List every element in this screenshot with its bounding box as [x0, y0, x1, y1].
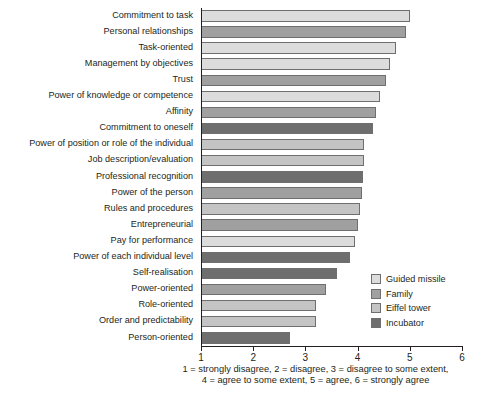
scale-caption-line-2: 4 = agree to some extent, 5 = agree, 6 =…	[140, 375, 491, 386]
bar-row	[201, 72, 462, 89]
bar-row	[201, 217, 462, 234]
bar	[201, 284, 326, 295]
x-axis-tick	[462, 346, 463, 351]
category-label: Pay for performance	[111, 235, 193, 246]
category-label: Role-oriented	[138, 299, 193, 310]
legend-item: Eiffel tower	[371, 301, 486, 316]
bar	[201, 75, 386, 86]
legend-item: Incubator	[371, 316, 486, 331]
figure-container: Commitment to taskPersonal relationships…	[0, 0, 491, 404]
category-label: Power of the person	[112, 187, 193, 198]
category-label: Power of knowledge or competence	[48, 90, 193, 101]
category-label: Personal relationships	[104, 26, 193, 37]
bar	[201, 252, 350, 263]
bar	[201, 42, 396, 53]
bar	[201, 123, 373, 134]
bar-row	[201, 121, 462, 138]
bar-row	[201, 137, 462, 154]
chart-legend: Guided missileFamilyEiffel towerIncubato…	[371, 272, 486, 330]
category-label: Power of each individual level	[73, 251, 193, 262]
category-label: Commitment to oneself	[100, 122, 194, 133]
category-label: Self-realisation	[133, 267, 193, 278]
bar	[201, 171, 363, 182]
legend-label: Guided missile	[386, 274, 446, 284]
bar-row	[201, 8, 462, 25]
bar-row	[201, 105, 462, 122]
legend-swatch	[371, 303, 381, 313]
bar	[201, 332, 290, 343]
x-axis-tick-label: 2	[250, 352, 256, 363]
bar	[201, 300, 316, 311]
bar	[201, 26, 406, 37]
bar-row	[201, 89, 462, 106]
x-axis-tick	[253, 346, 254, 351]
x-axis-tick	[358, 346, 359, 351]
category-label: Task-oriented	[138, 42, 193, 53]
legend-item: Family	[371, 287, 486, 302]
x-axis-tick-label: 5	[407, 352, 413, 363]
category-label: Order and predictability	[99, 315, 193, 326]
category-label: Trust	[173, 74, 193, 85]
bar	[201, 58, 390, 69]
legend-swatch	[371, 274, 381, 284]
bar-row	[201, 40, 462, 57]
category-label: Person-oriented	[128, 332, 193, 343]
category-label: Power of position or role of the individ…	[29, 138, 193, 149]
bar	[201, 268, 337, 279]
bar	[201, 219, 358, 230]
x-axis-tick-label: 3	[303, 352, 309, 363]
legend-item: Guided missile	[371, 272, 486, 287]
category-label: Professional recognition	[96, 171, 193, 182]
bar-row	[201, 185, 462, 202]
category-label-column: Commitment to taskPersonal relationships…	[0, 8, 197, 346]
legend-swatch	[371, 289, 381, 299]
category-label: Power-oriented	[131, 283, 193, 294]
category-label: Management by objectives	[85, 58, 193, 69]
bar	[201, 155, 364, 166]
category-label: Commitment to task	[112, 10, 193, 21]
scale-caption-line-1: 1 = strongly disagree, 2 = disagree, 3 =…	[140, 364, 491, 375]
bar-row	[201, 56, 462, 73]
bar	[201, 107, 376, 118]
bar	[201, 187, 362, 198]
legend-label: Eiffel tower	[386, 303, 431, 313]
bar-row	[201, 153, 462, 170]
bar	[201, 236, 355, 247]
category-label: Entrepreneurial	[131, 219, 193, 230]
x-axis-line	[201, 346, 463, 347]
bar-row	[201, 169, 462, 186]
legend-label: Family	[386, 289, 413, 299]
bar-row	[201, 233, 462, 250]
x-axis-tick-label: 6	[459, 352, 465, 363]
x-axis-tick	[410, 346, 411, 351]
category-label: Affinity	[166, 106, 193, 117]
bar	[201, 139, 364, 150]
bar	[201, 10, 410, 21]
bar	[201, 316, 316, 327]
y-axis-line	[201, 8, 202, 347]
x-axis-tick-label: 4	[355, 352, 361, 363]
x-axis-tick	[305, 346, 306, 351]
category-label: Job description/evaluation	[88, 154, 193, 165]
bar-row	[201, 24, 462, 41]
legend-label: Incubator	[386, 318, 424, 328]
bar-row	[201, 250, 462, 267]
x-axis-tick	[201, 346, 202, 351]
bar-row	[201, 201, 462, 218]
legend-swatch	[371, 318, 381, 328]
bar-row	[201, 330, 462, 347]
bar	[201, 91, 380, 102]
category-label: Rules and procedures	[104, 203, 193, 214]
x-axis-tick-label: 1	[198, 352, 204, 363]
scale-caption: 1 = strongly disagree, 2 = disagree, 3 =…	[140, 364, 491, 387]
bar	[201, 203, 360, 214]
